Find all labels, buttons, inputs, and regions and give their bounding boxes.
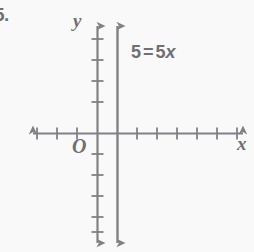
equation-rhs-coefficient: 5 — [156, 42, 166, 62]
equation-rhs-variable: x — [166, 42, 176, 62]
problem-number: 5. — [0, 4, 9, 26]
origin-label: O — [72, 135, 86, 158]
coordinate-plane-svg — [0, 0, 254, 252]
coordinate-plane-figure: 5. y x O 5=5x — [0, 0, 254, 252]
y-axis-label: y — [73, 10, 81, 32]
equation-operator: = — [141, 42, 156, 62]
x-axis-label: x — [237, 133, 247, 155]
x-axis-group — [33, 128, 243, 140]
equation-lhs: 5 — [131, 42, 141, 62]
equation-label: 5=5x — [131, 42, 176, 63]
